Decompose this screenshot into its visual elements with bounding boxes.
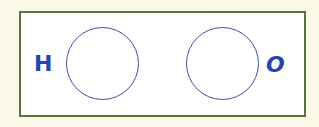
atom-label-oxygen: O	[266, 54, 285, 76]
atom-label-hydrogen: H	[34, 53, 52, 75]
diagram-frame	[19, 11, 306, 117]
atom-circle-hydrogen	[66, 27, 139, 100]
atom-circle-oxygen	[186, 27, 259, 100]
